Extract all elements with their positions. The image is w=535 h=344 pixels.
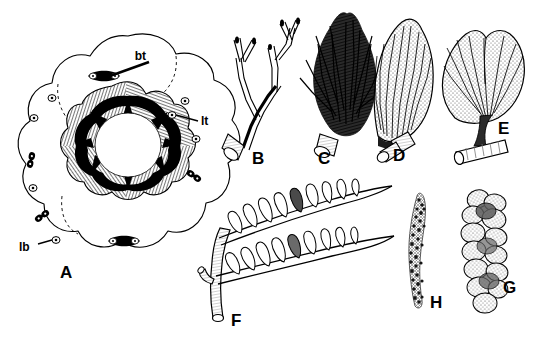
panel-letter-f: F (231, 311, 241, 330)
panel-letter-h: H (430, 293, 442, 312)
panel-f-pinnate-frond: F (197, 178, 394, 330)
panel-b-branched-thallus: B (222, 18, 300, 169)
pinnules-upper (225, 178, 361, 235)
plate-canvas: bt lt lb A (0, 0, 535, 344)
panel-d-elongate-blade: D (374, 19, 433, 165)
leader-line-lb (38, 240, 52, 244)
panel-a-cross-section: bt lt lb A (18, 34, 240, 282)
panel-letter-a: A (60, 263, 72, 282)
figure-plate: bt lt lb A (0, 0, 535, 344)
panel-letter-e: E (498, 119, 509, 138)
panel-e-fan-blade: E (442, 31, 524, 166)
panel-g-bead-chain: G (460, 187, 516, 313)
blade-e (442, 31, 524, 124)
annotation-lt: lt (201, 114, 208, 128)
annotation-bt: bt (135, 49, 146, 63)
annotation-lb: lb (19, 240, 30, 254)
central-lumen (95, 113, 161, 177)
panel-letter-g: G (503, 278, 516, 297)
panel-letter-b: B (252, 149, 264, 168)
panel-h-granular-strand: H (409, 193, 442, 312)
panel-letter-c: C (318, 149, 330, 168)
panel-letter-d: D (393, 146, 405, 165)
